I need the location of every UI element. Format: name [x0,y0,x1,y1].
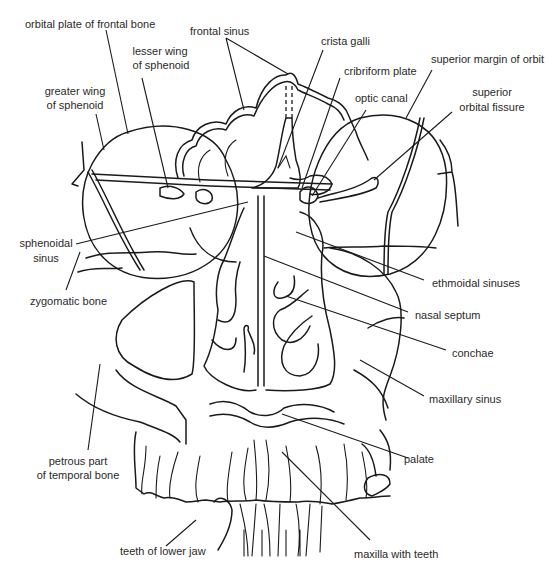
label-maxilla-with-teeth: maxilla with teeth [354,547,438,561]
leader-ethmoidal [296,232,424,280]
label-sphenoidal-sinus-line1: sphenoidal [16,236,76,250]
leader-frontal-sinus [226,38,288,110]
leader-orbital-plate [106,30,128,134]
label-nasal-septum: nasal septum [415,308,480,322]
label-sphenoidal-sinus-line2: sinus [16,251,76,265]
label-maxillary-sinus: maxillary sinus [429,392,501,406]
left-orbit [83,126,238,278]
label-cribriform-plate: cribriform plate [344,64,417,78]
label-orbital-plate: orbital plate of frontal bone [25,17,155,31]
label-sup-orbital-fissure-line1: superior [457,85,527,99]
leader-lesser-wing [142,78,168,188]
leader-maxilla-teeth [282,452,370,540]
leader-crista-galli [278,50,323,168]
leader-conchae [286,296,446,350]
label-conchae: conchae [452,346,494,360]
label-frontal-sinus: frontal sinus [190,24,249,38]
label-lesser-wing-line1: lesser wing [130,44,190,58]
label-optic-canal: optic canal [355,91,408,105]
upper-teeth [134,432,390,504]
label-greater-wing-line1: greater wing [42,84,108,98]
label-teeth-lower-jaw: teeth of lower jaw [120,544,206,558]
label-petrous-line2: of temporal bone [30,468,126,482]
label-zygomatic-bone: zygomatic bone [30,294,107,308]
skull-diagram: orbital plate of frontal bone frontal si… [0,0,552,573]
leader-optic-canal [312,110,366,196]
leader-teeth-lower [166,520,196,546]
leader-nasal-septum [264,256,408,312]
label-crista-galli: crista galli [321,34,370,48]
leader-petrous [88,364,100,450]
label-greater-wing-line2: of sphenoid [42,98,108,112]
label-ethmoidal-sinuses: ethmoidal sinuses [432,276,520,290]
label-sup-orbital-fissure-line2: orbital fissure [452,100,532,114]
label-palate: palate [404,452,434,466]
label-superior-margin: superior margin of orbit [431,52,544,66]
label-lesser-wing-line2: of sphenoid [126,58,196,72]
label-petrous-line1: petrous part [38,454,118,468]
leader-sphenoidal-sinus [76,202,248,244]
right-orbit [309,115,447,276]
leader-greater-wing [96,114,104,150]
leader-maxillary [360,360,424,396]
